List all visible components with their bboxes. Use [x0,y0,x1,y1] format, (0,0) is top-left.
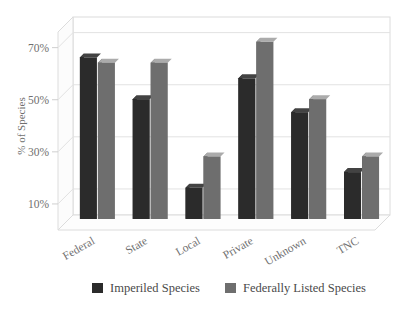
x-category-label: Unknown [262,234,307,267]
y-tick-label: 70% [28,42,50,54]
bar-front-face [344,172,361,219]
y-tick-label: 50% [28,94,50,106]
bar-front-face [133,99,150,219]
chart-legend: Imperiled SpeciesFederally Listed Specie… [92,281,366,295]
y-axis-title: % of Species [15,97,27,154]
legend-swatch [92,283,103,293]
bar-front-face [291,112,308,219]
x-axis-category-labels: FederalStateLocalPrivateUnknownTNC [61,234,361,267]
x-category-label: Federal [61,234,97,262]
x-category-label: State [123,234,149,256]
bar-front-face [362,156,379,219]
legend-swatch [225,283,236,293]
legend-label: Federally Listed Species [243,281,366,295]
bar-front-face [309,99,326,219]
bar-front-face [80,57,97,219]
bar-front-face [151,63,168,219]
y-tick-label: 30% [28,146,50,158]
chart-canvas: 10%30%50%70% % of Species FederalStateLo… [0,0,411,311]
bar-front-face [204,156,221,219]
plot-left-wall [58,17,73,230]
legend-label: Imperiled Species [110,281,200,295]
x-category-label: Local [173,234,202,257]
x-category-label: TNC [335,234,361,256]
bar-front-face [186,188,203,219]
x-category-label: Private [221,234,255,261]
y-axis-ticks: 10%30%50%70% [28,42,58,210]
bar-front-face [256,42,273,219]
plot-back-wall [73,17,390,215]
bar-front-face [98,63,115,219]
y-tick-label: 10% [28,198,50,210]
bar-front-face [238,78,255,219]
bar-chart: 10%30%50%70% % of Species FederalStateLo… [0,0,411,311]
